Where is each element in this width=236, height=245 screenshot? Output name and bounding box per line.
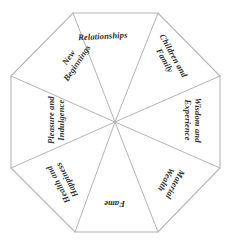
sector-label-wisdom-and-experience: Wisdom and Experience xyxy=(182,98,202,143)
octagon-diagram: Relationships Children and Family Wisdom… xyxy=(0,0,236,245)
sector-label-line: Fame xyxy=(104,199,125,209)
sector-label-line: Pleasure and xyxy=(46,96,56,144)
sector-label-line: Experience xyxy=(182,98,192,143)
sector-label-fame: Fame xyxy=(104,199,125,209)
sector-label-line: Wisdom and xyxy=(192,98,202,143)
sector-label-line: Indulgence xyxy=(56,96,66,144)
sector-label-pleasure-and-indulgence: Pleasure and Indulgence xyxy=(46,96,66,144)
